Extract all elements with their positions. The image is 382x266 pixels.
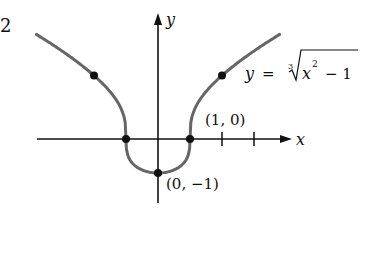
svg-text:− 1: − 1 (325, 65, 352, 83)
y-axis-arrow-icon (154, 13, 162, 25)
svg-text:y: y (244, 64, 255, 83)
function-label: y = 3 x 2 − 1 (244, 50, 358, 83)
point-marker (186, 135, 194, 143)
svg-text:x: x (302, 64, 311, 83)
svg-text:=: = (262, 65, 275, 83)
problem-number: 2 (0, 15, 11, 36)
x-axis-label: x (296, 130, 305, 149)
svg-text:2: 2 (312, 59, 318, 69)
point-label-0-neg1: (0, −1) (166, 175, 219, 193)
point-marker (90, 72, 98, 80)
point-marker (154, 169, 162, 177)
x-axis-arrow-icon (280, 135, 292, 143)
point-marker (122, 135, 130, 143)
point-label-1-0: (1, 0) (205, 111, 245, 129)
point-marker (218, 72, 226, 80)
function-graph: 2 x y (1, 0) (0, −1) y = 3 x 2 − 1 (0, 0, 382, 266)
y-axis-label: y (165, 10, 176, 29)
axes (37, 13, 292, 203)
